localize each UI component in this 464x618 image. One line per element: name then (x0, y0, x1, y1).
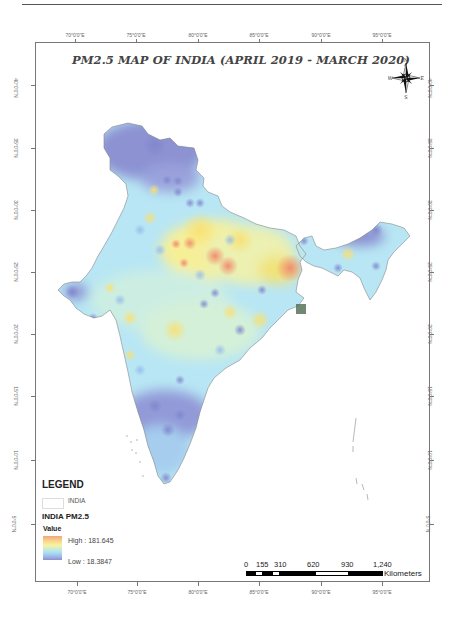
scale-label-310: 310 (274, 560, 287, 569)
legend-high-label: High : 181.645 (68, 537, 114, 544)
andaman-nicobar-islands (353, 418, 368, 500)
legend-title: LEGEND (42, 479, 84, 490)
india-pm25-raster-map (0, 0, 464, 618)
sundarbans-patch (296, 304, 306, 314)
legend-color-ramp (43, 536, 62, 560)
scale-label-0: 0 (244, 560, 248, 569)
lakshadweep-islands (126, 435, 143, 476)
legend-value-label: Value (43, 525, 61, 532)
legend-low-label: Low : 18.3847 (68, 558, 112, 565)
legend-india-label: INDIA (68, 497, 85, 504)
scale-label-1240: 1,240 (373, 560, 392, 569)
scale-label-620: 620 (307, 560, 320, 569)
legend-layer-title: INDIA PM2.5 (42, 512, 89, 521)
legend-india-swatch (42, 498, 64, 509)
scale-label-930: 930 (341, 560, 354, 569)
scale-unit-label: Kilometers (384, 569, 422, 578)
scale-label-155: 155 (256, 560, 269, 569)
